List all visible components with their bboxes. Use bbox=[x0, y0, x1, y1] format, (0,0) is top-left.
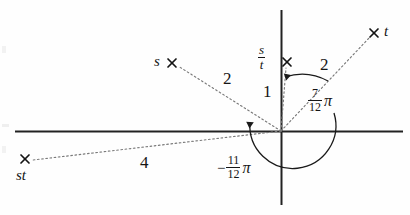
angle-numerator: 11 bbox=[226, 154, 240, 167]
modulus-label-st: 4 bbox=[140, 154, 149, 171]
point-label-st: st bbox=[16, 168, 26, 183]
angle-denominator: 12 bbox=[308, 100, 322, 114]
modulus-label-t: 2 bbox=[320, 56, 329, 73]
angle-numerator: 7 bbox=[308, 87, 322, 100]
fraction-s-over-t: s t bbox=[258, 43, 265, 71]
pi-symbol: π bbox=[240, 160, 250, 176]
modulus-label-s: 2 bbox=[223, 70, 232, 87]
scan-artifacts bbox=[2, 46, 9, 153]
point-label-s: s bbox=[154, 54, 160, 69]
ray-to-t bbox=[281, 37, 370, 131]
minus-sign: − bbox=[217, 161, 226, 176]
marker-st bbox=[21, 155, 29, 163]
pi-symbol: π bbox=[322, 93, 332, 109]
arc-seven-twelfths-pi bbox=[285, 74, 328, 81]
fraction-denominator: t bbox=[258, 57, 265, 72]
marker-t bbox=[370, 29, 378, 37]
diagram-canvas bbox=[0, 0, 410, 215]
angle-fraction-7-12: 7 12 bbox=[308, 87, 322, 113]
point-label-s-over-t: s t bbox=[258, 44, 265, 72]
marker-s-over-t bbox=[283, 58, 291, 66]
angle-fraction-11-12: 11 12 bbox=[226, 154, 240, 180]
angle-denominator: 12 bbox=[226, 167, 240, 181]
arc-minus-eleven-twelfths-pi bbox=[250, 113, 336, 169]
fraction-numerator: s bbox=[258, 43, 265, 57]
point-label-t: t bbox=[384, 24, 388, 39]
marker-s bbox=[168, 59, 176, 67]
angle-label-seven-twelfths-pi: 7 12 π bbox=[308, 86, 332, 114]
angle-label-minus-eleven-twelfths-pi: − 11 12 π bbox=[217, 155, 250, 181]
axes-group bbox=[15, 10, 403, 205]
argand-diagram: s t st s t 2 1 2 4 7 12 π − 11 12 π bbox=[0, 0, 410, 215]
modulus-label-s-over-t: 1 bbox=[263, 83, 272, 100]
